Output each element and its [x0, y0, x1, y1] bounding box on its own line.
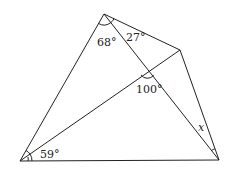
label-59: 59° — [40, 148, 60, 161]
geometry-diagram: 68° 27° 100° 59° x — [0, 0, 232, 173]
arc-bottom-left-1 — [26, 151, 30, 155]
label-68: 68° — [97, 36, 117, 49]
label-x: x — [198, 121, 205, 134]
side-upperright-bottomright — [180, 50, 219, 160]
arc-top-left — [99, 23, 111, 25]
arc-top-right — [111, 19, 114, 23]
label-27: 27° — [126, 31, 146, 44]
arc-bottom-right — [212, 149, 215, 151]
arc-bottom-left-2 — [30, 154, 32, 161]
side-bottomleft-top — [20, 14, 104, 161]
label-100: 100° — [136, 83, 163, 96]
diagonal-bottomleft-upperright — [20, 50, 180, 161]
